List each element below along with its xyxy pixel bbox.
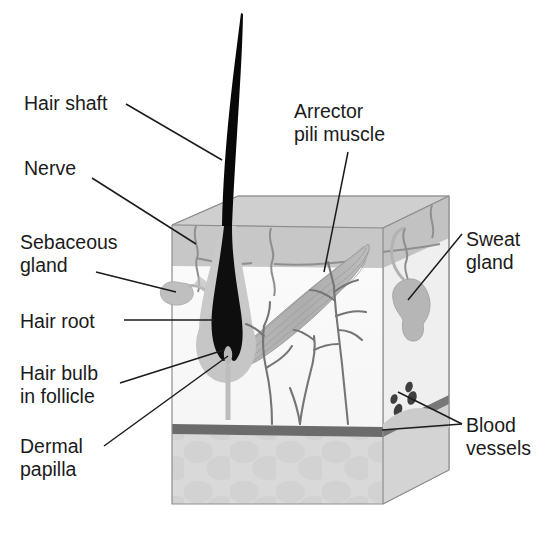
hair-shaft	[222, 13, 243, 226]
label-dermal-papilla: Dermal papilla	[20, 435, 83, 481]
label-hair-bulb: Hair bulb in follicle	[20, 362, 98, 408]
label-arrector-pili-muscle: Arrector pili muscle	[294, 100, 385, 146]
label-sweat-gland: Sweat gland	[466, 228, 520, 274]
label-hair-root: Hair root	[20, 310, 95, 333]
leader-hair-shaft	[126, 104, 222, 160]
label-sebaceous-gland: Sebaceous gland	[20, 231, 118, 277]
label-hair-shaft: Hair shaft	[24, 92, 107, 115]
subcutaneous-fat-front	[172, 434, 383, 504]
label-nerve: Nerve	[24, 157, 76, 180]
skin-anatomy-diagram: Hair shaft Nerve Sebaceous gland Hair ro…	[0, 0, 552, 534]
label-blood-vessels: Blood vessels	[466, 414, 531, 460]
